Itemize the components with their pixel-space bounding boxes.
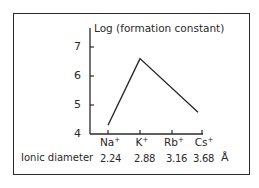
category-label-cs: Cs+ — [195, 137, 214, 148]
y-tick-label: 6 — [74, 70, 81, 81]
ionic-diameter-value: 3.68 — [193, 154, 214, 164]
category-label-na: Na+ — [100, 137, 120, 148]
angstrom-unit: Å — [221, 152, 229, 163]
ionic-diameter-value: 2.24 — [100, 154, 121, 164]
ionic-diameter-value: 3.16 — [166, 154, 187, 164]
y-tick-label: 4 — [74, 128, 81, 139]
ionic-diameter-value: 2.88 — [134, 154, 155, 164]
y-tick-label: 5 — [74, 99, 81, 110]
category-label-rb: Rb+ — [164, 137, 184, 148]
y-tick-label: 7 — [74, 41, 81, 52]
y-axis-label: Log (formation constant) — [94, 23, 224, 34]
data-line — [108, 59, 198, 126]
ionic-diameter-label: Ionic diameter — [21, 153, 93, 163]
category-label-k: K+ — [136, 137, 149, 148]
